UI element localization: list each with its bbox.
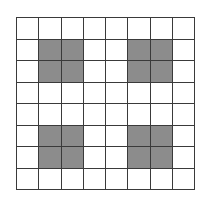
grid-cell-empty: [128, 104, 150, 126]
grid-cell-filled: [62, 147, 84, 169]
grid-cell-filled: [128, 40, 150, 62]
grid-cell-filled: [62, 126, 84, 148]
grid-cell-filled: [151, 61, 173, 83]
grid-cell-filled: [151, 147, 173, 169]
grid-cell-empty: [106, 147, 128, 169]
grid-cell-empty: [106, 169, 128, 191]
grid-cell-empty: [173, 104, 195, 126]
grid-cell-empty: [173, 83, 195, 105]
grid-cell-empty: [84, 126, 106, 148]
grid-cell-empty: [62, 18, 84, 40]
grid-cell-empty: [106, 126, 128, 148]
grid-cell-empty: [84, 147, 106, 169]
grid-cell-empty: [84, 40, 106, 62]
grid-cell-empty: [173, 61, 195, 83]
grid-cell-empty: [84, 83, 106, 105]
grid-cell-empty: [106, 40, 128, 62]
grid-cell-empty: [151, 83, 173, 105]
grid-cell-empty: [62, 104, 84, 126]
grid-cell-filled: [128, 147, 150, 169]
grid-cell-empty: [106, 83, 128, 105]
grid-cell-empty: [17, 83, 39, 105]
grid-cell-empty: [84, 61, 106, 83]
grid-cell-empty: [17, 104, 39, 126]
grid-cell-empty: [39, 83, 61, 105]
grid-cell-empty: [39, 104, 61, 126]
grid-cell-empty: [151, 104, 173, 126]
grid-diagram: [16, 17, 195, 190]
grid-cell-filled: [62, 40, 84, 62]
grid-cell-empty: [173, 169, 195, 191]
grid-cell-filled: [128, 126, 150, 148]
grid-cell-filled: [39, 126, 61, 148]
grid-cell-filled: [151, 40, 173, 62]
grid-cell-filled: [39, 147, 61, 169]
grid-cell-empty: [17, 61, 39, 83]
grid-cell-empty: [106, 61, 128, 83]
grid-cell-empty: [173, 126, 195, 148]
grid-cell-empty: [173, 40, 195, 62]
grid-cell-empty: [17, 18, 39, 40]
grid-cell-empty: [17, 147, 39, 169]
grid-cell-filled: [39, 61, 61, 83]
grid-cell-empty: [173, 147, 195, 169]
grid-cell-filled: [39, 40, 61, 62]
grid-cell-empty: [151, 169, 173, 191]
grid-cell-empty: [128, 83, 150, 105]
grid-cell-empty: [106, 104, 128, 126]
grid-cell-empty: [62, 169, 84, 191]
grid-cell-empty: [84, 18, 106, 40]
grid-cell-empty: [151, 18, 173, 40]
grid-cell-empty: [84, 169, 106, 191]
grid-cell-empty: [17, 126, 39, 148]
grid-cell-empty: [84, 104, 106, 126]
grid-cell-empty: [106, 18, 128, 40]
grid-cell-filled: [62, 61, 84, 83]
grid-cell-empty: [39, 169, 61, 191]
grid-cell-empty: [17, 169, 39, 191]
grid-cell-empty: [62, 83, 84, 105]
grid-cell-empty: [39, 18, 61, 40]
grid-cell-empty: [17, 40, 39, 62]
grid-cell-empty: [128, 169, 150, 191]
grid-cell-empty: [128, 18, 150, 40]
grid-cell-filled: [151, 126, 173, 148]
grid-cell-empty: [173, 18, 195, 40]
grid-cell-filled: [128, 61, 150, 83]
